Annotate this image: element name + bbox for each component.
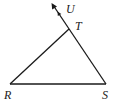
label-r: R <box>4 89 11 101</box>
segment-rt <box>10 29 69 84</box>
label-t: T <box>75 20 82 32</box>
ray-arrowhead-icon <box>52 3 58 10</box>
triangle-diagram <box>0 0 113 105</box>
ray-su <box>53 5 106 84</box>
label-u: U <box>66 3 75 15</box>
label-s: S <box>102 89 108 101</box>
